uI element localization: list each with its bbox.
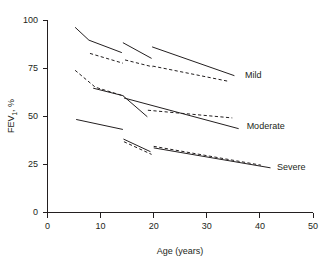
series-line [76, 119, 123, 129]
series-line [148, 110, 232, 118]
y-axis-title-suffix: , % [6, 99, 16, 112]
x-tick-label: 30 [202, 221, 212, 231]
data-series-group [75, 27, 270, 168]
series-line [90, 53, 123, 63]
y-tick-label: 0 [33, 207, 38, 217]
x-axis-ticks: 01020304050 [45, 213, 318, 232]
y-tick-label: 25 [28, 159, 38, 169]
series-line [154, 148, 271, 168]
series-annotations: MildModerateSevere [245, 70, 305, 172]
x-tick-label: 10 [96, 221, 106, 231]
svg-text:FEV1, %: FEV1, % [6, 99, 18, 133]
series-line [123, 139, 150, 152]
series-line [75, 27, 122, 52]
y-axis-ticks: 0255075100 [23, 15, 48, 217]
y-tick-label: 100 [23, 15, 38, 25]
x-axis-title: Age (years) [157, 246, 204, 256]
series-label-moderate: Moderate [247, 121, 285, 131]
y-tick-label: 50 [28, 111, 38, 121]
series-label-mild: Mild [245, 70, 262, 80]
x-tick-label: 40 [255, 221, 265, 231]
series-line [154, 146, 261, 165]
fev1-vs-age-line-chart: 0255075100 01020304050 MildModerateSever… [0, 0, 330, 265]
y-axis-title-base: FEV [6, 116, 16, 134]
series-line [152, 47, 234, 76]
series-line [123, 43, 152, 59]
x-tick-label: 20 [149, 221, 159, 231]
y-axis-title: FEV1, % [6, 99, 18, 133]
series-line [124, 142, 152, 155]
series-line [124, 98, 239, 129]
x-tick-label: 50 [308, 221, 318, 231]
series-line [153, 66, 229, 81]
x-tick-label: 0 [45, 221, 50, 231]
y-tick-label: 75 [28, 63, 38, 73]
chart-container: 0255075100 01020304050 MildModerateSever… [0, 0, 330, 265]
series-line [75, 70, 124, 96]
series-line [125, 60, 153, 67]
series-label-severe: Severe [277, 162, 306, 172]
